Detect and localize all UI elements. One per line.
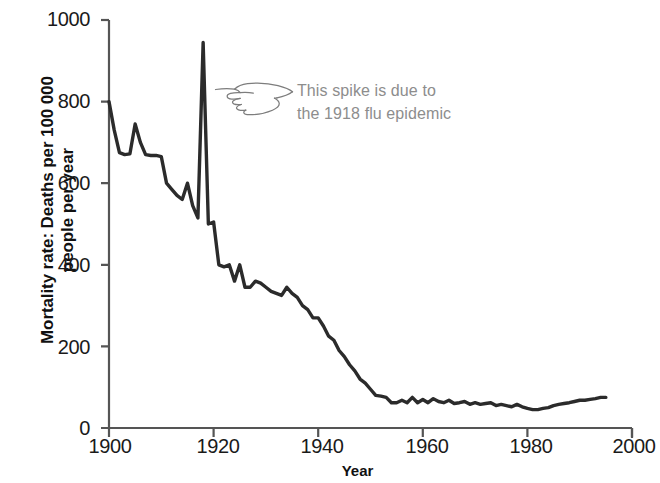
pointing-hand-icon — [213, 76, 295, 120]
y-axis-ticks — [101, 20, 109, 428]
x-axis-ticks — [109, 428, 632, 437]
spike-annotation-text: This spike is due to the 1918 flu epidem… — [297, 80, 451, 125]
